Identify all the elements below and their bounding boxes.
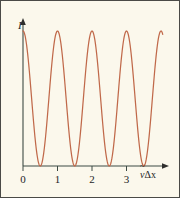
x-axis-label-nu: ~ν	[140, 169, 144, 180]
y-axis-label: I	[18, 19, 22, 31]
chart-svg	[1, 1, 179, 197]
x-tick-label-3: 3	[117, 173, 137, 185]
tilde-accent-icon: ~	[140, 162, 144, 171]
intensity-curve	[23, 31, 163, 166]
plot-area: 0 1 2 3	[1, 1, 179, 197]
x-axis-label-delta-x: Δx	[144, 169, 155, 180]
x-tick-label-0: 0	[13, 173, 33, 185]
x-axis-arrow-icon	[162, 163, 169, 169]
x-axis-label: ~νΔx	[140, 169, 156, 180]
x-tick-label-1: 1	[48, 173, 68, 185]
figure-panel: 0 1 2 3 I ~νΔx	[0, 0, 180, 198]
x-tick-label-2: 2	[82, 173, 102, 185]
